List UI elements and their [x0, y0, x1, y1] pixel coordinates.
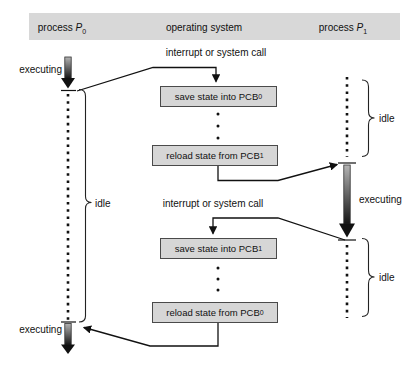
brace-idle-p0	[79, 90, 92, 323]
executing-arrow-p0-bottom	[61, 324, 75, 355]
header-p1-word: process	[319, 21, 357, 32]
header-operating-system: operating system	[166, 21, 242, 32]
header-p0-sub: 0	[82, 27, 86, 34]
interrupt-label-top: interrupt or system call	[166, 47, 267, 58]
os-box-save-pcb1: save state into PCB1	[160, 238, 277, 259]
brace-idle-p1-bottom	[362, 239, 375, 317]
header-process-p0: process P0	[38, 21, 86, 32]
header-p0-word: process	[38, 21, 76, 32]
p0-executing-bottom-label: executing	[19, 324, 62, 335]
os-box-save-pcb1-label: save state into PCB	[175, 243, 258, 254]
p1-idle-top-label: idle	[379, 113, 395, 124]
header-p1-sub: 1	[363, 27, 367, 34]
flow-p1-to-save-pcb1	[213, 218, 345, 240]
os-box-reload-pcb1: reload state from PCB1	[152, 145, 278, 166]
os-box-reload-pcb1-label: reload state from PCB	[166, 150, 259, 161]
os-box-reload-pcb0-label: reload state from PCB	[166, 307, 259, 318]
os-box-save-pcb0: save state into PCB0	[160, 86, 277, 107]
p0-idle-label: idle	[95, 197, 111, 208]
executing-arrow-p1	[339, 165, 355, 238]
header-process-p1: process P1	[319, 21, 367, 32]
os-box-reload-pcb0: reload state from PCB0	[152, 302, 278, 323]
flow-reload-pcb1-to-p1	[218, 165, 337, 181]
executing-arrow-p0-top	[61, 57, 75, 89]
flow-reload-pcb0-to-p0	[84, 323, 218, 347]
p0-executing-top-label: executing	[19, 63, 62, 74]
interrupt-label-mid: interrupt or system call	[163, 198, 264, 209]
os-box-save-pcb0-label: save state into PCB	[175, 91, 258, 102]
brace-idle-p1-top	[362, 80, 375, 157]
context-switch-diagram: process P0 operating system process P1 i…	[0, 0, 417, 369]
p1-executing-label: executing	[359, 194, 402, 205]
p1-idle-bottom-label: idle	[379, 272, 395, 283]
